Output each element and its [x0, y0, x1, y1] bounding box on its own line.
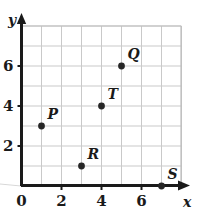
y-tick-label: 2 [3, 137, 13, 155]
point-marker [78, 163, 85, 170]
y-tick-label: 4 [3, 97, 13, 115]
point-label: Q [128, 46, 140, 62]
y-axis-label: y [7, 12, 17, 28]
x-axis-label: x [182, 194, 192, 210]
coordinate-plane-figure: 0246246 PRTQS y x [0, 0, 203, 215]
point-marker [38, 123, 45, 130]
x-tick-label: 6 [136, 192, 146, 210]
decorative-stray-line [0, 184, 21, 186]
scatter-plot-svg: 0246246 PRTQS y x [0, 0, 203, 215]
data-points: PRTQS [38, 46, 178, 189]
point-label: T [108, 86, 120, 102]
point-label: R [87, 146, 100, 162]
y-axis-arrowhead [17, 13, 26, 24]
y-tick-label: 6 [3, 57, 13, 75]
point-marker [98, 103, 105, 110]
axis-tick-labels: 0246246 [3, 57, 147, 210]
x-axis-arrowhead [178, 181, 190, 191]
point-marker [118, 63, 125, 70]
axes [17, 13, 190, 190]
point-marker [158, 183, 165, 190]
x-tick-label: 2 [56, 192, 66, 210]
point-label: P [47, 106, 59, 122]
x-tick-label: 4 [96, 192, 106, 210]
x-tick-label: 0 [16, 192, 26, 210]
point-label: S [168, 166, 178, 182]
axis-tick-marks [18, 66, 142, 190]
